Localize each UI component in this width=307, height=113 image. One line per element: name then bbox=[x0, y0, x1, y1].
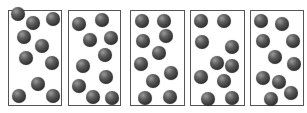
particle-icon bbox=[72, 79, 86, 93]
particle-icon bbox=[275, 17, 289, 31]
particle-icon bbox=[217, 14, 231, 28]
particle-icon bbox=[86, 90, 100, 104]
particle-icon bbox=[31, 77, 45, 91]
container-box-4 bbox=[190, 10, 245, 106]
particle-icon bbox=[26, 16, 40, 30]
particle-icon bbox=[272, 75, 286, 89]
particle-icon bbox=[163, 90, 177, 104]
particle-icon bbox=[46, 89, 60, 103]
container-box-1 bbox=[8, 10, 62, 106]
particle-icon bbox=[45, 56, 59, 70]
particle-icon bbox=[98, 48, 112, 62]
particle-icon bbox=[157, 14, 171, 28]
particle-icon bbox=[256, 34, 270, 48]
particle-icon bbox=[11, 7, 25, 21]
particle-icon bbox=[225, 40, 239, 54]
particle-icon bbox=[256, 71, 270, 85]
particle-icon bbox=[83, 33, 97, 47]
particle-icon bbox=[286, 34, 300, 48]
particle-icon bbox=[95, 13, 109, 27]
particle-icon bbox=[225, 59, 239, 73]
particle-icon bbox=[284, 86, 298, 100]
particle-icon bbox=[217, 74, 231, 88]
particle-icon bbox=[136, 34, 150, 48]
particle-icon bbox=[287, 57, 301, 71]
particle-icon bbox=[104, 31, 118, 45]
particle-icon bbox=[135, 14, 149, 28]
particle-icon bbox=[76, 59, 90, 73]
particle-icon bbox=[195, 35, 209, 49]
particle-icon bbox=[225, 91, 239, 105]
container-box-5 bbox=[250, 10, 304, 106]
particle-icon bbox=[17, 30, 31, 44]
particle-icon bbox=[164, 66, 178, 80]
particle-icon bbox=[35, 39, 49, 53]
particle-icon bbox=[146, 74, 160, 88]
particle-icon bbox=[19, 51, 33, 65]
container-box-2 bbox=[68, 10, 121, 106]
particle-icon bbox=[159, 29, 173, 43]
particle-icon bbox=[268, 50, 282, 64]
particle-icon bbox=[254, 14, 268, 28]
particle-icon bbox=[72, 17, 86, 31]
particle-icon bbox=[138, 91, 152, 105]
particle-icon bbox=[46, 12, 60, 26]
particle-icon bbox=[99, 70, 113, 84]
particle-icon bbox=[194, 14, 208, 28]
particle-icon bbox=[134, 57, 148, 71]
particle-icon bbox=[194, 70, 208, 84]
particle-icon bbox=[264, 92, 278, 106]
particle-icon bbox=[210, 56, 224, 70]
container-box-3 bbox=[130, 10, 185, 106]
particle-icon bbox=[105, 91, 119, 105]
particle-icon bbox=[12, 89, 26, 103]
particle-icon bbox=[152, 46, 166, 60]
particle-icon bbox=[201, 92, 215, 106]
